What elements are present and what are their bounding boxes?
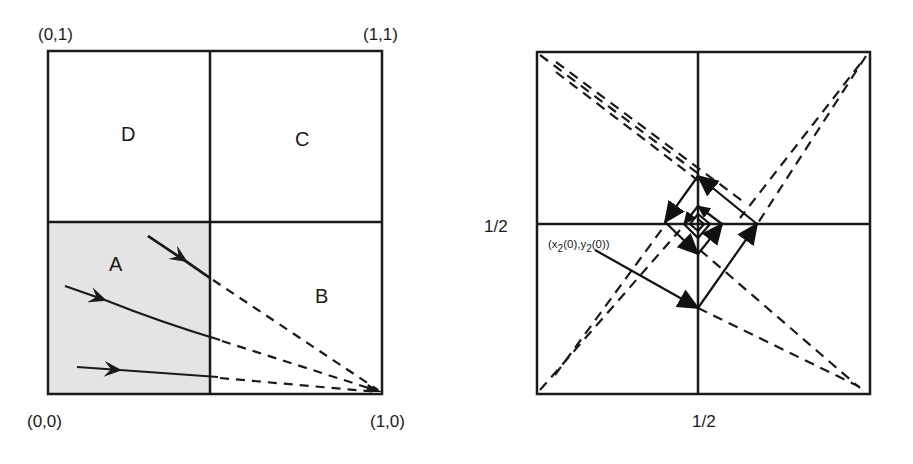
region-label-b: B: [315, 285, 328, 307]
corner-label-top-left: (0,1): [38, 25, 73, 44]
right-panel: 1/2 1/2 (x2(0),y2(0)): [484, 52, 870, 431]
region-label-d: D: [121, 123, 135, 145]
region-a-shade: [48, 222, 210, 394]
region-label-c: C: [295, 128, 309, 150]
y-axis-mid-label: 1/2: [484, 217, 508, 236]
corner-label-bottom-left: (0,0): [27, 412, 62, 431]
x-axis-mid-label: 1/2: [692, 412, 716, 431]
figure-canvas: (0,1) (1,1) (0,0) (1,0) D C A B: [0, 0, 913, 464]
corner-label-bottom-right: (1,0): [370, 412, 405, 431]
corner-label-top-right: (1,1): [363, 25, 398, 44]
dashed-continuations: [213, 280, 378, 392]
arrival-arrow-icon: [366, 384, 382, 392]
initial-point-label: (x2(0),y2(0)): [548, 238, 610, 254]
left-panel: (0,1) (1,1) (0,0) (1,0) D C A B: [27, 25, 405, 431]
region-label-a: A: [109, 253, 123, 275]
